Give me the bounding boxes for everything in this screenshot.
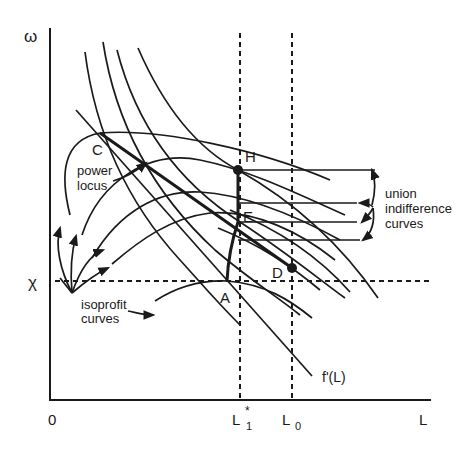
indifference-curve-1 bbox=[85, 52, 240, 325]
origin-label: 0 bbox=[48, 411, 56, 428]
isoprofit-curves bbox=[65, 132, 345, 318]
power-locus-label-line1: power bbox=[77, 163, 113, 178]
tick-l1-sup: * bbox=[245, 404, 250, 418]
indifference-curve-4 bbox=[138, 48, 378, 298]
tick-l1-base: L bbox=[232, 411, 240, 428]
union-bracket-arrows bbox=[360, 170, 375, 240]
union-label-line1: union bbox=[385, 186, 417, 201]
point-c-label: C bbox=[92, 141, 103, 158]
point-a-label: A bbox=[220, 289, 230, 306]
union-arrow-mid-1 bbox=[360, 203, 373, 207]
tick-l1-sub: 1 bbox=[246, 420, 252, 432]
union-arrow-mid-2 bbox=[362, 208, 373, 222]
chi-label: χ bbox=[28, 273, 37, 292]
isoprofit-arrows bbox=[58, 228, 108, 293]
point-d-label: D bbox=[272, 264, 283, 281]
union-arrow-top bbox=[372, 170, 375, 205]
indifference-curve-2 bbox=[103, 42, 300, 315]
isoprofit-pointer-arrow bbox=[128, 311, 153, 315]
y-axis-label-omega: ω bbox=[24, 27, 37, 46]
isoprofit-curve-3 bbox=[92, 192, 340, 258]
point-e-label: E bbox=[243, 208, 253, 225]
point-d-dot bbox=[287, 263, 297, 273]
union-label-line2: indifference bbox=[385, 201, 452, 216]
tick-l0-sub: 0 bbox=[295, 420, 301, 432]
bargaining-diagram: ω χ 0 L L 1 * L 0 C H E D A f'(L) power … bbox=[0, 0, 469, 455]
tick-l1-star: L 1 * bbox=[232, 404, 252, 432]
isoprofit-label-line2: curves bbox=[81, 311, 120, 326]
point-h-dot bbox=[233, 165, 243, 175]
x-axis-label: L bbox=[419, 411, 427, 428]
union-indifference-curves bbox=[85, 42, 378, 325]
tick-l0-base: L bbox=[282, 411, 290, 428]
power-locus-label-line2: locus bbox=[77, 178, 108, 193]
union-arrow-bottom bbox=[363, 208, 374, 240]
union-horizontal-lines bbox=[238, 170, 375, 240]
isoprofit-arrow-3 bbox=[72, 250, 103, 293]
isoprofit-label-line1: isoprofit bbox=[81, 297, 127, 312]
tick-l0: L 0 bbox=[282, 411, 301, 432]
labor-demand-label: f'(L) bbox=[322, 369, 346, 385]
labor-demand-line bbox=[76, 110, 312, 376]
contract-line-cd bbox=[100, 133, 292, 268]
union-label-line3: curves bbox=[385, 216, 424, 231]
point-h-label: H bbox=[245, 148, 256, 165]
